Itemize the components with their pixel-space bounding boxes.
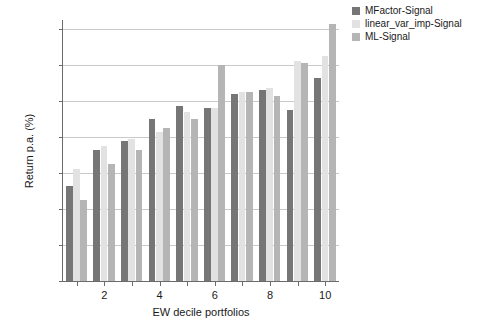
x-axis-tick-mark xyxy=(132,282,133,286)
bar xyxy=(322,56,329,281)
bar xyxy=(266,88,273,281)
bar xyxy=(246,92,253,281)
bar xyxy=(239,92,246,281)
bar xyxy=(93,150,100,281)
y-axis-tick-mark xyxy=(59,137,63,138)
bar xyxy=(184,112,191,281)
x-axis-tick-mark xyxy=(242,282,243,286)
x-axis-tick-mark xyxy=(215,282,216,286)
y-axis-tick-mark xyxy=(59,29,63,30)
bar xyxy=(329,24,336,281)
x-axis-tick-mark xyxy=(187,282,188,286)
bar xyxy=(287,110,294,281)
bar xyxy=(191,119,198,281)
bar xyxy=(121,141,128,281)
y-axis-tick-mark xyxy=(59,101,63,102)
x-axis-tick-mark xyxy=(270,282,271,286)
bar xyxy=(314,78,321,281)
bar xyxy=(73,169,80,281)
legend-item: ML-Signal xyxy=(352,31,482,42)
bar xyxy=(211,108,218,281)
x-axis-label: EW decile portfolios xyxy=(152,306,249,318)
gridline xyxy=(63,29,339,30)
y-axis-tick-mark xyxy=(59,173,63,174)
y-axis-tick-mark xyxy=(59,65,63,66)
bar xyxy=(101,146,108,281)
bar xyxy=(66,186,73,281)
bar xyxy=(204,108,211,281)
x-axis-tick-label: 6 xyxy=(212,289,218,301)
y-axis-tick-mark xyxy=(59,281,63,282)
x-axis-tick-mark xyxy=(104,282,105,286)
x-axis-tick-mark xyxy=(77,282,78,286)
legend-item: MFactor-Signal xyxy=(352,5,482,16)
x-axis-tick-label: 4 xyxy=(157,289,163,301)
bar xyxy=(80,200,87,281)
bar xyxy=(301,63,308,281)
x-axis-tick-mark xyxy=(325,282,326,286)
bar xyxy=(259,90,266,281)
x-axis-tick-label: 8 xyxy=(267,289,273,301)
legend-item-label: MFactor-Signal xyxy=(365,6,433,16)
bar xyxy=(294,61,301,281)
bar xyxy=(108,164,115,281)
bar xyxy=(231,94,238,281)
bar-chart-figure: Return p.a. (%) EW decile portfolios 00.… xyxy=(0,0,484,318)
y-axis-label: Return p.a. (%) xyxy=(23,113,35,188)
x-axis-tick-label: 2 xyxy=(101,289,107,301)
legend-item: linear_var_imp-Signal xyxy=(352,18,482,29)
bar xyxy=(274,96,281,281)
bar xyxy=(149,119,156,281)
bar xyxy=(128,139,135,281)
plot-area: Return p.a. (%) EW decile portfolios 00.… xyxy=(62,20,339,282)
x-axis-tick-mark xyxy=(298,282,299,286)
legend-item-label: ML-Signal xyxy=(365,32,410,42)
legend-swatch-icon xyxy=(352,20,360,28)
legend-item-label: linear_var_imp-Signal xyxy=(365,19,462,29)
x-axis-tick-mark xyxy=(160,282,161,286)
bar xyxy=(218,65,225,281)
y-axis-tick-mark xyxy=(59,245,63,246)
legend-swatch-icon xyxy=(352,7,360,15)
chart-legend: MFactor-Signallinear_var_imp-SignalML-Si… xyxy=(352,5,482,44)
legend-swatch-icon xyxy=(352,33,360,41)
bar xyxy=(176,106,183,281)
bar xyxy=(136,150,143,281)
bar xyxy=(156,132,163,281)
x-axis-tick-label: 10 xyxy=(319,289,331,301)
bar xyxy=(163,128,170,281)
y-axis-tick-mark xyxy=(59,209,63,210)
